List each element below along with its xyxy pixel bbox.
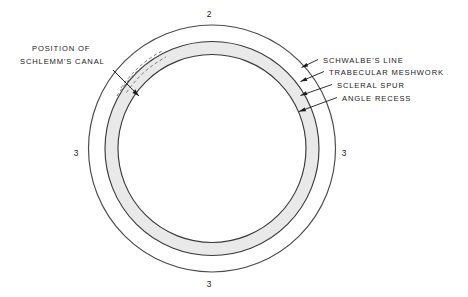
schlemms-canal-label-line1: POSITION OF [32,44,90,53]
callout-number-left: 3 [74,148,79,158]
callout-number-top: 2 [207,9,212,19]
angle-recess-label: ANGLE RECESS [342,94,411,103]
scleral-spur-label: SCLERAL SPUR [337,81,405,90]
trabecular-meshwork-label: TRABECULAR MESHWORK [329,68,444,77]
gonioscopy-ring-diagram: POSITION OF SCHLEMM'S CANAL SCHWALBE'S L… [0,0,468,297]
callout-number-right: 3 [342,148,347,158]
callout-number-bottom: 3 [207,279,212,289]
schlemms-canal-label-line2: SCHLEMM'S CANAL [20,57,105,66]
schwalbes-line-label: SCHWALBE'S LINE [323,56,404,65]
